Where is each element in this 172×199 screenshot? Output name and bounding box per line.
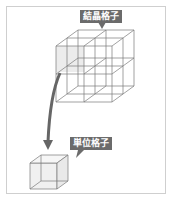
crystal-lattice-cube <box>56 30 134 102</box>
crystal-lattice-pointer <box>98 22 106 29</box>
arrow-icon <box>43 73 60 150</box>
unit-cell-cube <box>30 155 68 189</box>
lattice-diagram <box>0 0 172 199</box>
unit-cell-label: 単位格子 <box>70 137 112 150</box>
unit-cell-pointer <box>76 150 84 158</box>
crystal-lattice-label: 結晶格子 <box>80 10 122 23</box>
